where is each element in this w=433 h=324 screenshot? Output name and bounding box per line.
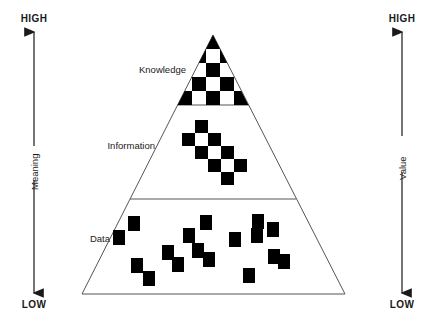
knowledge-cell xyxy=(234,63,248,77)
information-cell xyxy=(208,133,221,146)
knowledge-cell xyxy=(206,63,220,77)
knowledge-cell xyxy=(262,91,276,105)
data-square xyxy=(143,271,155,286)
knowledge-cell xyxy=(178,91,192,105)
data-square xyxy=(267,222,279,237)
diagram-canvas xyxy=(0,0,433,324)
data-square xyxy=(243,268,255,283)
knowledge-cell xyxy=(220,49,234,63)
knowledge-cell xyxy=(164,77,178,91)
data-square xyxy=(200,215,212,230)
information-cell xyxy=(182,133,195,146)
data-square xyxy=(183,228,195,243)
knowledge-cell xyxy=(206,35,220,49)
data-pattern xyxy=(113,214,290,286)
information-cell xyxy=(234,159,247,172)
information-cell xyxy=(221,172,234,185)
knowledge-cell xyxy=(234,91,248,105)
data-square xyxy=(128,216,140,231)
data-square xyxy=(192,243,204,258)
data-square xyxy=(172,257,184,272)
knowledge-cell xyxy=(192,77,206,91)
knowledge-cell xyxy=(248,77,262,91)
data-square xyxy=(113,230,125,245)
data-square xyxy=(203,252,215,267)
data-square xyxy=(251,228,263,243)
information-cell xyxy=(221,146,234,159)
knowledge-cell xyxy=(178,63,192,77)
information-cell xyxy=(195,146,208,159)
data-square xyxy=(131,258,143,273)
pyramid-diagram: HIGH LOW Meaning HIGH LOW Value Knowledg… xyxy=(0,0,433,324)
knowledge-pattern xyxy=(150,35,276,105)
data-square xyxy=(229,232,241,247)
knowledge-cell xyxy=(220,77,234,91)
knowledge-cell xyxy=(192,49,206,63)
knowledge-cell xyxy=(206,91,220,105)
data-square xyxy=(278,254,290,269)
information-cell xyxy=(195,120,208,133)
knowledge-cell xyxy=(150,91,164,105)
information-pattern xyxy=(182,120,247,185)
information-cell xyxy=(208,159,221,172)
data-square xyxy=(252,214,264,229)
